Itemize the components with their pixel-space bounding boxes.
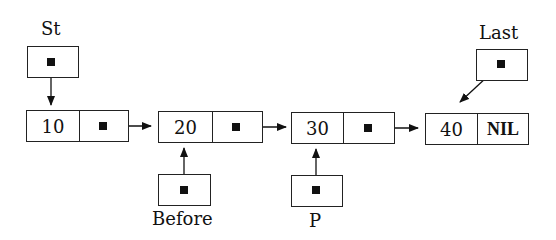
node-value: 30: [292, 113, 344, 143]
pointer-label-last: Last: [479, 23, 518, 43]
pointer-label-p: P: [309, 211, 321, 231]
next-pointer-dot: [99, 122, 107, 130]
list-node-4: 40 NIL: [425, 113, 529, 145]
list-node-3: 30: [291, 112, 395, 144]
pointer-label-before: Before: [152, 209, 213, 229]
next-pointer-dot: [364, 124, 372, 132]
node-value: 20: [159, 112, 213, 142]
pointer-dot-last: [497, 60, 505, 68]
pointer-dot-before: [180, 186, 188, 194]
node-value: 10: [27, 111, 80, 141]
pointer-dot-p: [312, 186, 320, 194]
node-nil-cell: NIL: [478, 114, 528, 144]
next-pointer-dot: [232, 123, 240, 131]
pointer-label-st: St: [41, 19, 61, 39]
pointer-dot-st: [47, 58, 55, 66]
list-node-1: 10: [26, 110, 129, 142]
list-node-2: 20: [158, 111, 263, 143]
node-value: 40: [426, 114, 478, 144]
